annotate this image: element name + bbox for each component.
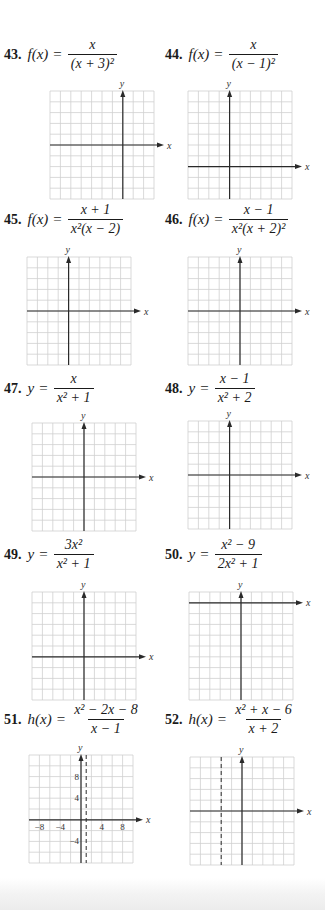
fraction: x (x + 3)² [68, 38, 117, 71]
x-tick-label: 8 [120, 822, 125, 832]
function-name: h(x) [189, 712, 213, 727]
denominator: x² + 1 [54, 388, 94, 405]
x-axis-arrow-icon [295, 473, 302, 478]
x-tick-label: −4 [55, 822, 65, 832]
x-axis-label: x [143, 306, 149, 317]
fraction: x − 1 x²(x + 2)² [229, 203, 289, 236]
graph-46: xy [188, 257, 292, 365]
equals-sign: = [57, 712, 65, 727]
equals-sign: = [53, 47, 61, 62]
denominator: 2x² + 1 [215, 554, 262, 571]
x-axis-arrow-icon [297, 809, 304, 814]
y-axis-label: y [80, 410, 86, 421]
fraction: x + 1 x²(x − 2) [68, 203, 123, 236]
graph-45: xy [27, 257, 131, 365]
equals-sign: = [53, 212, 61, 227]
problem-number: 43. [4, 48, 22, 62]
grid-lines [188, 91, 292, 199]
denominator: x + 2 [246, 719, 282, 736]
numerator: 3x² [62, 538, 85, 554]
problem-number: 47. [4, 382, 22, 396]
problem-44-equation: 44. f(x) = x (x − 1)² [165, 38, 278, 71]
function-name: f(x) [189, 47, 210, 62]
problem-number: 48. [165, 382, 183, 396]
problem-number: 50. [165, 548, 183, 562]
denominator: x²(x − 2) [68, 219, 123, 236]
y-axis-label: y [77, 742, 83, 753]
equals-sign: = [39, 547, 47, 562]
equals-sign: = [39, 381, 47, 396]
equals-sign: = [214, 212, 222, 227]
problem-number: 49. [4, 548, 22, 562]
x-axis-arrow-icon [157, 143, 164, 148]
y-axis-label: y [226, 408, 232, 419]
numerator: x + 1 [78, 203, 114, 219]
x-axis-label: x [305, 597, 311, 608]
x-axis-label: x [148, 472, 154, 483]
denominator: x²(x + 2)² [229, 219, 289, 236]
problem-43-equation: 43. f(x) = x (x + 3)² [4, 38, 117, 71]
x-axis-arrow-icon [296, 600, 303, 605]
denominator: (x − 1)² [229, 54, 278, 71]
problem-number: 45. [4, 213, 22, 227]
x-axis-label: x [304, 470, 310, 481]
numerator: x² + x − 6 [232, 703, 295, 719]
y-tick-label: 8 [75, 772, 80, 782]
function-name: h(x) [28, 712, 52, 727]
y-tick-label: −4 [69, 836, 79, 846]
numerator: x² − 2x − 8 [71, 703, 141, 719]
x-axis-arrow-icon [134, 309, 141, 314]
y-axis-label: y [65, 244, 71, 255]
problem-49-equation: 49. y = 3x² x² + 1 [4, 538, 94, 571]
y-axis-label: y [226, 78, 232, 89]
fraction: x − 1 x² + 2 [215, 372, 255, 405]
x-tick-label: −8 [35, 822, 45, 832]
graph-50: xy [189, 592, 293, 700]
x-axis-arrow-icon [136, 817, 143, 822]
function-name: y [189, 547, 196, 562]
problem-50-equation: 50. y = x² − 9 2x² + 1 [165, 538, 262, 571]
denominator: x − 1 [88, 719, 124, 736]
page-shadow [0, 878, 325, 910]
denominator: x² + 2 [215, 388, 255, 405]
graph-47: xy [32, 423, 136, 531]
x-axis-arrow-icon [139, 654, 146, 659]
problem-46-equation: 46. f(x) = x − 1 x²(x + 2)² [165, 203, 288, 236]
graph-52: xy [190, 757, 294, 865]
denominator: (x + 3)² [68, 54, 117, 71]
fraction: x² − 2x − 8 x − 1 [71, 703, 141, 736]
numerator: x − 1 [241, 203, 277, 219]
fraction: x² + x − 6 x + 2 [232, 703, 295, 736]
problem-number: 51. [4, 713, 22, 727]
equals-sign: = [214, 47, 222, 62]
y-axis-label: y [80, 579, 86, 590]
problem-number: 46. [165, 213, 183, 227]
equals-sign: = [218, 712, 226, 727]
problem-47-equation: 47. y = x x² + 1 [4, 372, 94, 405]
equals-sign: = [200, 381, 208, 396]
x-axis-label: x [145, 814, 151, 825]
numerator: x [247, 38, 259, 54]
numerator: x − 1 [217, 372, 253, 388]
graph-43: xy [50, 91, 154, 199]
y-axis-label: y [119, 78, 125, 89]
problem-51-equation: 51. h(x) = x² − 2x − 8 x − 1 [4, 703, 141, 736]
function-name: y [28, 381, 35, 396]
numerator: x [67, 372, 79, 388]
x-axis-arrow-icon [295, 164, 302, 169]
x-axis-label: x [304, 161, 310, 172]
function-name: f(x) [28, 47, 49, 62]
graph-44: xy [188, 91, 292, 199]
problem-number: 44. [165, 48, 183, 62]
y-axis-label: y [238, 744, 244, 755]
x-axis-label: x [166, 140, 172, 151]
problem-48-equation: 48. y = x − 1 x² + 2 [165, 372, 255, 405]
x-axis-label: x [304, 306, 310, 317]
fraction: x (x − 1)² [229, 38, 278, 71]
problem-number: 52. [165, 713, 183, 727]
x-axis-arrow-icon [295, 309, 302, 314]
function-name: y [189, 381, 196, 396]
fraction: 3x² x² + 1 [54, 538, 94, 571]
graph-49: xy [32, 592, 136, 700]
function-name: y [28, 547, 35, 562]
